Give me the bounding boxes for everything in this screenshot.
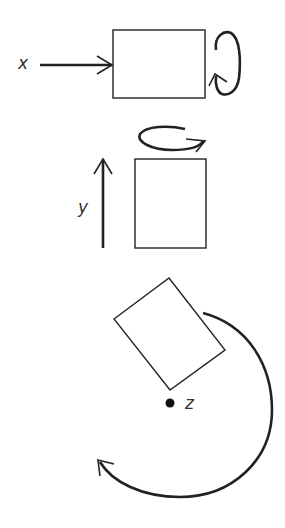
box-y <box>135 159 206 248</box>
z-axis-point-icon <box>166 399 175 408</box>
box-z-rotated <box>114 278 225 390</box>
x-axis-label: x <box>17 53 29 73</box>
y-rotation-arrow-icon <box>139 127 205 152</box>
z-axis-label: z <box>184 393 195 413</box>
panel-z: z <box>98 278 272 497</box>
panel-y: y <box>77 127 206 248</box>
box-x <box>113 30 205 98</box>
x-rotation-arrow-icon <box>209 32 240 94</box>
y-translation-arrow-icon <box>94 159 112 248</box>
panel-x: x <box>17 30 240 98</box>
degrees-of-freedom-diagram: x y z <box>0 0 285 528</box>
y-axis-label: y <box>77 197 89 217</box>
x-translation-arrow-icon <box>40 56 112 74</box>
